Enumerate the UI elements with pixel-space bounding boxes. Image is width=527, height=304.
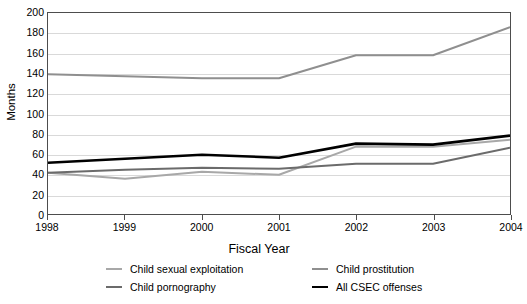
x-axis-tick-mark [356, 215, 357, 220]
x-axis-tick-label: 2003 [411, 221, 457, 233]
x-axis-tick-mark [434, 215, 435, 220]
y-axis-tick-label: 180 [14, 27, 44, 37]
x-axis-tick-mark [124, 215, 125, 220]
x-axis-tick-mark [279, 215, 280, 220]
x-axis-tick-mark [202, 215, 203, 220]
chart-legend: Child sexual exploitationChild pornograp… [106, 261, 476, 297]
y-axis-tick-label: 0 [14, 210, 44, 220]
y-axis-tick-label: 200 [14, 7, 44, 17]
legend-item: Child sexual exploitation [106, 261, 243, 277]
x-axis-tick-label: 1998 [24, 221, 70, 233]
footnote-text [4, 298, 514, 304]
x-axis-tick-label: 2002 [333, 221, 379, 233]
legend-item: Child prostitution [312, 261, 414, 277]
series-lines [48, 13, 510, 214]
legend-label: Child pornography [130, 281, 216, 293]
y-axis-tick-label: 80 [14, 129, 44, 139]
y-axis-tick-label: 100 [14, 109, 44, 119]
x-axis-tick-mark [47, 215, 48, 220]
x-axis-tick-labels: 1998199920002001200220032004 [47, 221, 511, 237]
x-axis-tick-mark [511, 215, 512, 220]
x-axis-tick-label: 1999 [101, 221, 147, 233]
y-axis-tick-label: 40 [14, 169, 44, 179]
legend-label: Child sexual exploitation [130, 263, 243, 275]
y-axis-tick-label: 60 [14, 149, 44, 159]
legend-item: All CSEC offenses [312, 279, 422, 295]
x-axis-tick-label: 2000 [179, 221, 225, 233]
x-axis-title: Fiscal Year [0, 242, 518, 256]
legend-line-swatch [106, 268, 122, 270]
y-axis-tick-label: 120 [14, 88, 44, 98]
x-axis-tick-label: 2004 [488, 221, 527, 233]
legend-label: Child prostitution [336, 263, 414, 275]
legend-line-swatch [312, 286, 328, 288]
series-line [48, 136, 510, 163]
plot-area [47, 12, 511, 215]
y-axis-tick-label: 140 [14, 68, 44, 78]
legend-item: Child pornography [106, 279, 216, 295]
y-axis-tick-label: 20 [14, 190, 44, 200]
y-axis-tick-labels: 020406080100120140160180200 [14, 0, 44, 230]
y-axis-tick-label: 160 [14, 48, 44, 58]
legend-label: All CSEC offenses [336, 281, 422, 293]
legend-line-swatch [312, 268, 328, 270]
x-axis-tick-label: 2001 [256, 221, 302, 233]
legend-line-swatch [106, 286, 122, 288]
series-line [48, 27, 510, 78]
